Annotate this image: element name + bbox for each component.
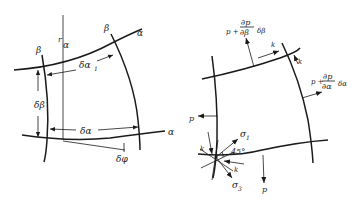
- right-panel: p + ∂p ∂β δβ p + ∂p ∂α δα p p k k k k σ …: [189, 18, 347, 194]
- label-alpha-bottom: α: [168, 127, 174, 137]
- sigma3-arrow: [216, 157, 232, 178]
- label-beta-right: β: [103, 23, 109, 33]
- delta-alpha1-dim-left: [47, 70, 76, 75]
- label-r-alpha-sub: α: [63, 40, 69, 50]
- delta-alpha-dim-right: [98, 127, 138, 130]
- delta-alpha1-dim-right: [97, 55, 113, 61]
- label-p-top-factor: δβ: [257, 27, 265, 35]
- left-panel: β β α α r α δα 1 δβ δα δφ: [14, 15, 174, 164]
- shear-arrow-top: [258, 51, 279, 58]
- delta-phi-tangent: [63, 141, 125, 150]
- label-k-bottom: k: [234, 166, 238, 174]
- label-alpha-top: α: [137, 28, 143, 38]
- label-p-right-factor: δα: [338, 80, 347, 88]
- label-sigma3-sub: 3: [238, 185, 242, 192]
- label-delta-alpha1-sub: 1: [94, 65, 98, 72]
- label-delta-phi: δφ: [116, 154, 128, 164]
- label-p-left: p: [189, 114, 194, 123]
- label-p-bottom: p: [262, 185, 267, 194]
- label-delta-beta: δβ: [34, 100, 45, 110]
- label-p-right-den: ∂α: [322, 82, 332, 91]
- shear-arrow-bottom: [224, 161, 244, 164]
- corner-node: [214, 155, 217, 158]
- shear-arrow-left: [208, 132, 212, 154]
- diagram-canvas: β β α α r α δα 1 δβ δα δφ: [0, 0, 363, 199]
- alpha-line-top-right: [202, 48, 300, 79]
- alpha-line-bottom: [22, 131, 165, 139]
- beta-line-right: [111, 34, 140, 150]
- label-angle-45: 45°: [230, 147, 245, 156]
- delta-alpha-dim-left: [50, 129, 76, 130]
- label-k-left: k: [200, 145, 204, 153]
- pressure-arrow-top: [246, 38, 254, 67]
- label-p-top-base: p +: [226, 28, 239, 36]
- label-p-right-num: ∂p: [323, 72, 332, 81]
- label-k-top: k: [271, 41, 275, 49]
- label-k-right: k: [298, 58, 302, 66]
- label-sigma1-sub: 1: [246, 134, 250, 141]
- pressure-arrow-bottom: [263, 155, 264, 183]
- label-p-top-den: ∂β: [240, 28, 249, 37]
- pressure-arrow-right: [302, 92, 322, 98]
- alpha-line-top: [14, 29, 142, 70]
- label-beta-left: β: [35, 45, 41, 55]
- label-delta-alpha: δα: [80, 126, 92, 136]
- label-p-top-num: ∂p: [241, 18, 250, 27]
- label-delta-alpha1: δα: [79, 60, 91, 70]
